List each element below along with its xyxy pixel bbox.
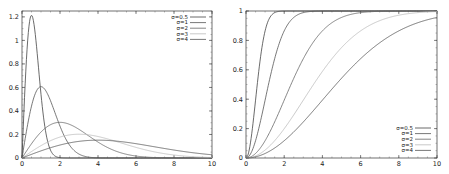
y-tick-label: 0 — [15, 154, 19, 162]
x-tick-label: 2 — [58, 160, 62, 168]
y-tick-label: 0.8 — [233, 37, 243, 45]
series-line-3 — [22, 134, 212, 158]
y-tick-label: 1.2 — [9, 13, 19, 21]
y-tick-label: 0.2 — [9, 131, 19, 139]
pdf-plot: 024681000.20.40.60.811.2σ=0.5σ=1σ=2σ=3σ=… — [9, 11, 216, 168]
x-tick-label: 10 — [433, 160, 441, 168]
x-tick-label: 8 — [172, 160, 176, 168]
y-tick-label: 0 — [239, 154, 243, 162]
legend-label: σ=4 — [401, 147, 413, 153]
series-line-2 — [22, 122, 212, 158]
y-tick-label: 1 — [15, 37, 19, 45]
x-tick-label: 10 — [208, 160, 216, 168]
y-tick-label: 0.6 — [9, 84, 19, 92]
chart-canvas: 024681000.20.40.60.811.2σ=0.5σ=1σ=2σ=3σ=… — [0, 0, 449, 174]
x-tick-label: 2 — [282, 160, 286, 168]
x-tick-label: 8 — [397, 160, 401, 168]
cdf-plot: 024681000.20.40.60.81σ=0.5σ=1σ=2σ=3σ=4 — [233, 7, 441, 168]
x-tick-label: 6 — [359, 160, 363, 168]
legend-label: σ=4 — [176, 36, 188, 42]
x-tick-label: 4 — [320, 160, 324, 168]
x-tick-label: 0 — [20, 160, 24, 168]
series-line-1 — [22, 87, 212, 158]
y-tick-label: 0.8 — [9, 60, 19, 68]
y-tick-label: 0.4 — [9, 107, 19, 115]
y-tick-label: 1 — [239, 7, 243, 15]
series-line-4 — [22, 140, 212, 158]
y-tick-label: 0.4 — [233, 96, 243, 104]
x-tick-label: 6 — [134, 160, 138, 168]
x-tick-label: 0 — [244, 160, 248, 168]
y-tick-label: 0.6 — [233, 66, 243, 74]
y-tick-label: 0.2 — [233, 125, 243, 133]
x-tick-label: 4 — [96, 160, 100, 168]
